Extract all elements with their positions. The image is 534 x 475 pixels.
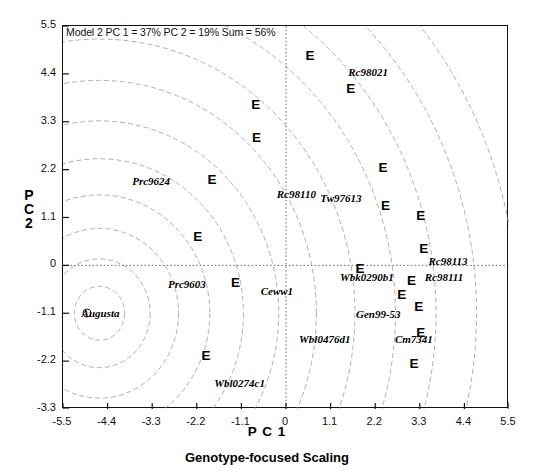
y-axis-title-line1: P xyxy=(18,188,40,202)
genotype-label: Prc9603 xyxy=(168,278,206,289)
environment-marker: E xyxy=(251,98,260,112)
y-axis-tick-label: 4.4 xyxy=(20,66,56,78)
y-axis-tick-label: -1.1 xyxy=(20,305,56,317)
environment-marker: E xyxy=(252,131,261,145)
environment-marker: E xyxy=(381,200,390,214)
genotype-label: Tw97613 xyxy=(320,193,361,204)
model-title: Model 2 PC 1 = 37% PC 2 = 19% Sum = 56% xyxy=(66,26,275,38)
genotype-label: Wbl0274c1 xyxy=(214,377,265,388)
environment-marker: E xyxy=(231,276,240,290)
environment-marker: E xyxy=(193,231,202,245)
environment-marker: E xyxy=(208,174,217,188)
environment-marker: E xyxy=(346,83,355,97)
genotype-label: Gen99-53 xyxy=(356,309,401,320)
y-axis-tick-label: 2.2 xyxy=(20,162,56,174)
x-axis-tick-label: 0 xyxy=(265,415,305,427)
chart-caption: Genotype-focused Scaling xyxy=(0,450,534,465)
genotype-label: Rc98110 xyxy=(277,188,316,199)
environment-marker: E xyxy=(379,161,388,175)
x-axis-tick-label: -2.2 xyxy=(176,415,216,427)
genotype-label: Cm7341 xyxy=(395,334,433,345)
y-axis-tick-label: 1.1 xyxy=(20,210,56,222)
x-axis-tick-label: -5.5 xyxy=(42,415,82,427)
x-axis-tick-label: -1.1 xyxy=(220,415,260,427)
genotype-label: Rc98021 xyxy=(348,67,388,78)
environment-marker: E xyxy=(416,209,425,223)
y-axis-tick-label: 5.5 xyxy=(20,18,56,30)
x-axis-tick-label: 5.5 xyxy=(488,415,528,427)
x-axis-tick-label: 3.3 xyxy=(399,415,439,427)
genotype-label: Rc98113 xyxy=(428,255,467,266)
plot-svg xyxy=(63,26,509,409)
y-axis-tick-label: 0 xyxy=(20,257,56,269)
environment-marker: E xyxy=(414,300,423,314)
environment-marker: E xyxy=(397,288,406,302)
environment-marker: E xyxy=(201,349,210,363)
genotype-label: Wbl0476d1 xyxy=(299,334,350,345)
environment-marker: E xyxy=(306,50,315,64)
x-axis-tick-label: -3.3 xyxy=(131,415,171,427)
genotype-label: Wbk0290b1 xyxy=(340,271,394,282)
y-axis-tick-label: -2.2 xyxy=(20,353,56,365)
gge-biplot-figure: Model 2 PC 1 = 37% PC 2 = 19% Sum = 56% … xyxy=(0,0,534,475)
plot-area xyxy=(62,25,508,408)
environment-marker: E xyxy=(419,242,428,256)
x-axis-tick-label: 2.2 xyxy=(354,415,394,427)
x-axis-tick-label: 4.4 xyxy=(443,415,483,427)
genotype-label: Prc9624 xyxy=(132,175,170,186)
genotype-label: Augusta xyxy=(82,308,120,319)
x-axis-tick-label: -4.4 xyxy=(87,415,127,427)
environment-marker: E xyxy=(409,357,418,371)
genotype-label: Ceww1 xyxy=(261,286,293,297)
environment-marker: E xyxy=(407,274,416,288)
genotype-label: Rc98111 xyxy=(425,272,464,283)
y-axis-tick-label: 3.3 xyxy=(20,114,56,126)
y-axis-tick-label: -3.3 xyxy=(20,401,56,413)
x-axis-tick-label: 1.1 xyxy=(310,415,350,427)
